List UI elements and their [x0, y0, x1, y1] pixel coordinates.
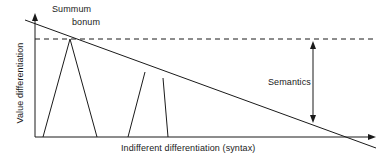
- y-axis: [32, 13, 38, 137]
- y-axis-label: Value differentiation: [15, 40, 25, 126]
- diagram-canvas: [0, 0, 391, 163]
- summum-bonum-peak: [43, 39, 97, 137]
- semantics-label: Semantics: [268, 77, 311, 87]
- value-differentiation-diagram: Summum bonum Semantics Indifferent diffe…: [0, 0, 391, 163]
- secondary-peak: [128, 72, 168, 137]
- summum-label: Summum: [52, 4, 91, 14]
- bonum-label: bonum: [72, 17, 100, 27]
- x-axis: [35, 134, 376, 140]
- x-axis-label: Indifferent differentiation (syntax): [121, 143, 255, 153]
